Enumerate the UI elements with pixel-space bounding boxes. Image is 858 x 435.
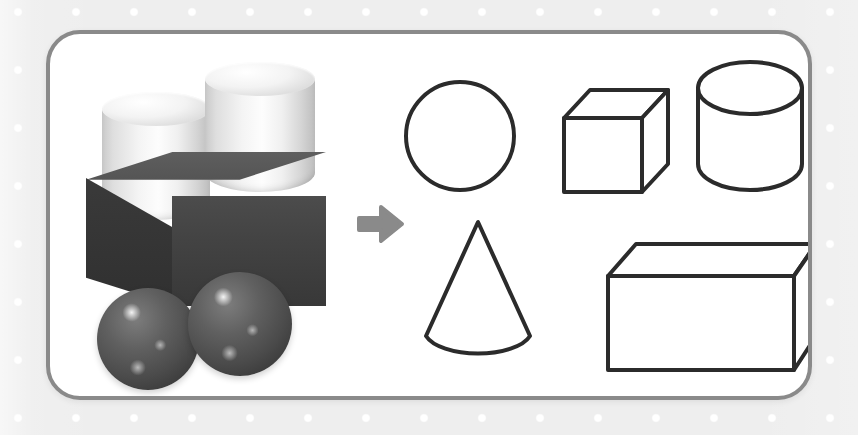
toy-construction-photo: White cylinder (left) White cylinder (ri… bbox=[50, 34, 380, 400]
photo-sphere-left: Dark sphere (left) bbox=[97, 288, 199, 390]
photo-cylinder-right-label: White cylinder (right) bbox=[204, 61, 205, 62]
photo-cylinder-left-label: White cylinder (left) bbox=[101, 91, 102, 92]
shape-rectangular-prism: Rectangular prism bbox=[588, 236, 812, 378]
block-top-face bbox=[86, 152, 326, 194]
cylinder-top-face bbox=[102, 92, 210, 126]
photo-sphere-right: Dark sphere (right) bbox=[188, 272, 292, 376]
geometric-shapes-panel: Circle Cube bbox=[380, 34, 812, 400]
shape-cylinder: Cylinder bbox=[692, 58, 808, 198]
flashcard: White cylinder (left) White cylinder (ri… bbox=[46, 30, 812, 400]
shape-cone: Cone bbox=[408, 216, 548, 372]
cylinder-top-face bbox=[205, 62, 315, 96]
photo-block-label: Dark rectangular block bbox=[85, 151, 86, 152]
shape-circle: Circle bbox=[402, 78, 518, 194]
shape-cube: Cube bbox=[546, 82, 670, 198]
page-background: White cylinder (left) White cylinder (ri… bbox=[0, 0, 858, 435]
block-side-face bbox=[86, 178, 176, 306]
